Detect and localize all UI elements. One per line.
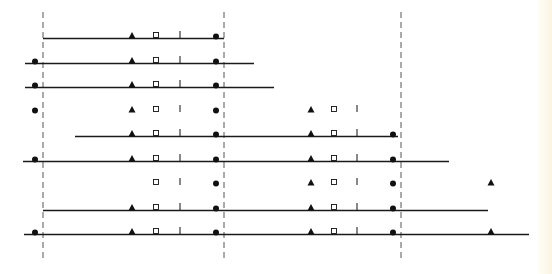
circle-marker-icon (390, 206, 396, 212)
triangle-marker-icon (129, 106, 136, 113)
circle-marker-icon (213, 34, 219, 40)
triangle-marker-icon (308, 155, 315, 162)
triangle-marker-icon (488, 228, 495, 235)
square-marker-icon (332, 107, 337, 112)
track-6 (23, 154, 449, 163)
triangle-marker-icon (308, 228, 315, 235)
circle-marker-icon (213, 157, 219, 163)
square-marker-icon (154, 131, 159, 136)
circle-marker-icon (32, 83, 38, 89)
track-1 (43, 31, 224, 40)
square-marker-icon (154, 229, 159, 234)
circle-marker-icon (213, 108, 219, 114)
triangle-marker-icon (488, 179, 495, 186)
circle-marker-icon (213, 83, 219, 89)
circle-marker-icon (213, 230, 219, 236)
triangle-marker-icon (308, 204, 315, 211)
timeline-diagram (0, 0, 552, 274)
square-marker-icon (154, 58, 159, 63)
triangle-marker-icon (129, 228, 136, 235)
track-8 (43, 203, 488, 212)
track-4 (25, 105, 371, 114)
square-marker-icon (154, 180, 159, 185)
track-2 (25, 56, 254, 65)
circle-marker-icon (213, 132, 219, 138)
square-marker-icon (154, 33, 159, 38)
circle-marker-icon (32, 108, 38, 114)
circle-marker-icon (390, 181, 396, 187)
triangle-marker-icon (129, 130, 136, 137)
square-marker-icon (332, 156, 337, 161)
triangle-marker-icon (308, 179, 315, 186)
track-3 (25, 80, 274, 89)
track-5 (75, 129, 398, 138)
circle-marker-icon (32, 230, 38, 236)
square-marker-icon (332, 131, 337, 136)
circle-marker-icon (390, 157, 396, 163)
triangle-marker-icon (129, 81, 136, 88)
triangle-marker-icon (129, 57, 136, 64)
circle-marker-icon (390, 230, 396, 236)
square-marker-icon (332, 229, 337, 234)
square-marker-icon (154, 82, 159, 87)
square-marker-icon (154, 205, 159, 210)
track-7 (148, 178, 502, 187)
triangle-marker-icon (129, 155, 136, 162)
square-marker-icon (332, 180, 337, 185)
triangle-marker-icon (308, 130, 315, 137)
circle-marker-icon (213, 206, 219, 212)
triangle-marker-icon (308, 106, 315, 113)
track-9 (24, 227, 529, 236)
square-marker-icon (154, 107, 159, 112)
circle-marker-icon (32, 59, 38, 65)
circle-marker-icon (32, 157, 38, 163)
circle-marker-icon (213, 181, 219, 187)
triangle-marker-icon (129, 32, 136, 39)
square-marker-icon (332, 205, 337, 210)
circle-marker-icon (213, 59, 219, 65)
circle-marker-icon (390, 132, 396, 138)
triangle-marker-icon (129, 204, 136, 211)
square-marker-icon (154, 156, 159, 161)
